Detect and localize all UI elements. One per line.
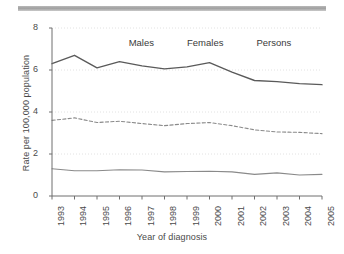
chart-legend: MalesFemalesPersons bbox=[78, 36, 318, 50]
y-tick-label: 8 bbox=[24, 22, 38, 32]
y-tick-label: 0 bbox=[24, 190, 38, 200]
legend-swatch-persons bbox=[232, 42, 252, 44]
chart-figure: 02468 1993199419951996199719981999200020… bbox=[0, 0, 344, 254]
series-line-females bbox=[52, 169, 322, 175]
x-tick-label: 2005 bbox=[326, 206, 336, 226]
legend-item-males: Males bbox=[105, 38, 154, 48]
x-tick-label: 1993 bbox=[56, 206, 66, 226]
y-axis-title: Rate per 100,000 population bbox=[21, 43, 31, 183]
x-tick-label: 2004 bbox=[303, 206, 313, 226]
legend-label: Females bbox=[187, 38, 223, 48]
x-tick-label: 2000 bbox=[213, 206, 223, 226]
x-tick-label: 1995 bbox=[101, 206, 111, 226]
legend-swatch-females bbox=[163, 42, 183, 44]
x-tick-label: 2002 bbox=[258, 206, 268, 226]
legend-item-persons: Persons bbox=[232, 38, 291, 48]
legend-label: Males bbox=[129, 38, 154, 48]
x-tick-label: 2003 bbox=[281, 206, 291, 226]
series-line-persons bbox=[52, 118, 322, 134]
x-tick-label: 1999 bbox=[191, 206, 201, 226]
x-tick-label: 1998 bbox=[168, 206, 178, 226]
x-axis-title: Year of diagnosis bbox=[0, 232, 344, 242]
x-tick-label: 1996 bbox=[123, 206, 133, 226]
x-tick-label: 2001 bbox=[236, 206, 246, 226]
legend-item-females: Females bbox=[163, 38, 223, 48]
legend-swatch-males bbox=[105, 42, 125, 44]
legend-label: Persons bbox=[256, 38, 291, 48]
data-series-layer bbox=[52, 55, 322, 175]
x-tick-label: 1997 bbox=[146, 206, 156, 226]
x-tick-label: 1994 bbox=[78, 206, 88, 226]
